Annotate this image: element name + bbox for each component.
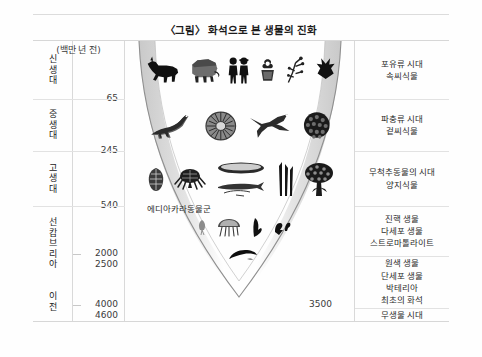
row-divider: [33, 99, 125, 100]
fossil-row-mesozoic: [149, 105, 333, 147]
axis-tick-65: 65: [107, 93, 118, 103]
conifer-fossil-icon: [301, 110, 333, 142]
era-char: 생: [49, 173, 57, 184]
desc-cell-prokaryote: 원색 생물 단세포 생물 박테리아 최초의 화석: [355, 256, 449, 308]
shell-fossil-icon: [146, 166, 166, 192]
jellyfish-fossil-icon: [216, 217, 242, 237]
desc-line: 진핵 생물: [385, 213, 420, 225]
axis-tick-mark: [73, 305, 81, 306]
desc-cell-cenozoic: 포유류 시대 속씨식물: [355, 41, 449, 99]
diagram-frame: 신 생 대 중 생 대 고 생 대: [33, 40, 449, 322]
era-cell-paleozoic: 고 생 대: [33, 151, 73, 206]
desc-line: 속씨식물: [386, 70, 418, 82]
description-column: 포유류 시대 속씨식물 파충류 시대 겉씨식물 무척추동물의 시대 양지식물 진…: [355, 41, 449, 321]
ediacaran-worm-fossil-icon: [272, 218, 292, 236]
pterosaur-fossil-icon: [248, 112, 291, 140]
desc-line: 포유류 시대: [381, 58, 424, 70]
axis-tick-2500: 2500: [95, 259, 118, 269]
humans-fossil-icon: [226, 54, 251, 86]
branch-fossil-icon: [283, 54, 310, 86]
fossil-row-earliest-life: [221, 247, 265, 263]
reed-plant-fossil-icon: [274, 160, 296, 198]
era-char: 대: [49, 75, 57, 86]
desc-cell-abiotic: 무생물 시대: [355, 308, 449, 323]
leaf-cluster-fossil-icon: [314, 54, 337, 86]
fossil-row-ediacaran: [187, 215, 299, 239]
axis-tick-245: 245: [101, 145, 118, 155]
era-char: 중: [49, 109, 57, 120]
time-axis-column: (백만 년 전) 65 245 540 2000 2500 4000 4600: [73, 41, 125, 321]
row-divider: [33, 206, 125, 207]
trilobite-fossil-icon: [172, 166, 208, 192]
horse-fossil-icon: [145, 54, 181, 86]
desc-line: 파충류 시대: [381, 113, 424, 125]
axis-tick-2000: 2000: [95, 248, 118, 258]
era-char: 고: [49, 163, 57, 174]
axis-tick-mark: [73, 254, 81, 255]
axis-tick-540: 540: [101, 200, 118, 210]
fossil-row-cenozoic: [145, 47, 337, 93]
evolution-funnel-chart: 에디아카라동물군: [125, 41, 355, 321]
ediacara-fauna-label: 에디아카라동물군: [147, 202, 211, 214]
axis-unit-label: (백만 년 전): [35, 43, 122, 56]
era-cell-mesozoic: 중 생 대: [33, 99, 73, 151]
figure-title: 〈그림〉 화석으로 본 생물의 진화: [33, 22, 449, 37]
era-column: 신 생 대 중 생 대 고 생 대: [33, 41, 73, 321]
era-char: 생: [49, 65, 57, 76]
desc-line: 다세포 생물: [381, 225, 424, 237]
value-3500-label: 3500: [309, 299, 332, 309]
ammonite-fossil-icon: [204, 110, 238, 142]
desc-line: 무생물 시대: [381, 309, 424, 321]
top-divider: [33, 14, 449, 15]
era-cell-before: 이 전: [33, 281, 73, 323]
fish-fossil-icon: [214, 159, 268, 199]
desc-cell-mesozoic: 파충류 시대 겉씨식물: [355, 99, 449, 151]
era-char: 대: [49, 184, 57, 195]
fossil-row-paleozoic: [145, 157, 337, 201]
era-char: 선: [49, 217, 57, 228]
desc-line: 겉씨식물: [386, 125, 418, 137]
desc-cell-eukaryote: 진핵 생물 다세포 생물 스트로마톨라이트: [355, 206, 449, 256]
desc-line: 박테리아: [386, 282, 418, 294]
era-char: 아: [49, 259, 57, 270]
mammoth-fossil-icon: [185, 54, 223, 86]
era-cell-precambrian: 선 캄 브 리 아: [33, 206, 73, 281]
soft-organism-fossil-icon: [195, 218, 209, 236]
row-divider: [33, 151, 125, 152]
desc-cell-paleozoic: 무척추동물의 시대 양지식물: [355, 151, 449, 206]
era-char: 대: [49, 130, 57, 141]
desc-line: 스트로마톨라이트: [370, 237, 434, 249]
era-char: 캄: [49, 228, 57, 239]
desc-line: 무척추동물의 시대: [369, 166, 436, 178]
ediacaran-frond-fossil-icon: [249, 216, 265, 238]
dinosaur-fossil-icon: [149, 111, 194, 141]
axis-tick-4600: 4600: [95, 310, 118, 320]
desc-line: 원색 생물: [385, 257, 420, 269]
desc-line: 최초의 화석: [381, 294, 424, 306]
primitive-worm-fossil-icon: [227, 248, 259, 262]
era-char: 생: [49, 120, 57, 131]
era-char: 리: [49, 249, 57, 260]
tree-fossil-icon: [302, 161, 336, 197]
desc-line: 단세포 생물: [381, 270, 424, 282]
flowering-plant-fossil-icon: [256, 54, 279, 86]
era-char: 브: [49, 238, 57, 249]
desc-line: 양지식물: [386, 179, 418, 191]
era-char: 전: [49, 302, 57, 313]
axis-tick-4000: 4000: [95, 299, 118, 309]
diagram-page: 〈그림〉 화석으로 본 생물의 진화 신 생 대 중 생 대 고: [0, 0, 482, 357]
era-char: 이: [49, 291, 57, 302]
